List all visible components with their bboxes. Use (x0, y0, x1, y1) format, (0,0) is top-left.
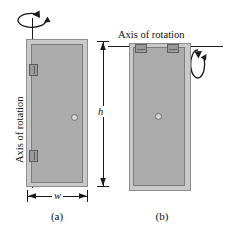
hinge-right-b (167, 44, 179, 53)
hinge-left-b (135, 44, 147, 53)
height-label: h (96, 106, 105, 117)
door-knob-a (71, 114, 78, 121)
axis-label-a: Axis of rotation (14, 97, 25, 164)
door-rotation-figure: Axis of rotation w (a) h Axis of rotatio… (0, 0, 230, 234)
rotation-arrow-b (193, 22, 219, 68)
axis-label-b: Axis of rotation (118, 29, 185, 40)
door-knob-b (155, 113, 162, 120)
width-label-a: w (52, 190, 63, 201)
panel-a: Axis of rotation w (a) (0, 0, 115, 234)
hinge-bottom-a (29, 150, 38, 162)
hinge-top-a (29, 64, 38, 76)
caption-b: (b) (142, 210, 182, 222)
panel-b: Axis of rotation (b) (115, 0, 230, 234)
caption-a: (a) (37, 210, 77, 222)
rotation-arrow-a (12, 9, 58, 35)
